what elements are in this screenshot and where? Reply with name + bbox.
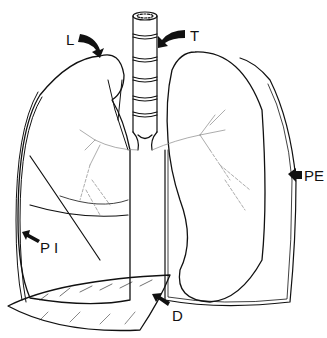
- arrow-T: [158, 30, 185, 48]
- arrow-PI: [22, 230, 40, 243]
- arrow-PE: [288, 168, 302, 182]
- label-D: D: [172, 308, 183, 323]
- right-side-lung: [165, 52, 296, 306]
- label-PI: P I: [40, 240, 58, 255]
- lung-diagram: [0, 0, 327, 338]
- label-T: T: [190, 28, 199, 43]
- arrow-L: [78, 34, 104, 58]
- label-L: L: [66, 32, 74, 47]
- diaphragm: [8, 275, 170, 331]
- left-side-lung: [16, 55, 130, 304]
- label-PE: PE: [304, 168, 324, 183]
- trachea: [133, 12, 157, 150]
